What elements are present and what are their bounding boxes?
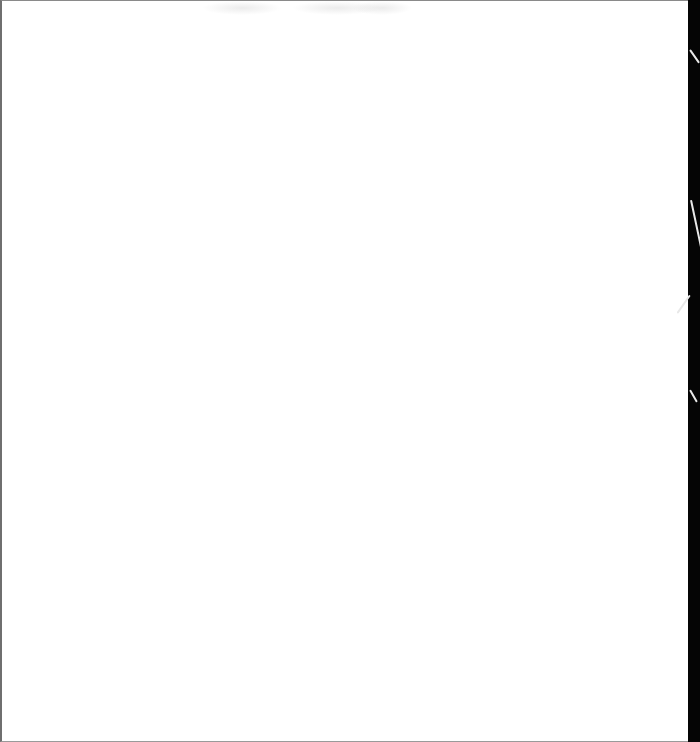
paper-fiber <box>689 50 699 64</box>
scan-smudge <box>202 1 282 15</box>
paper-fiber <box>690 200 700 274</box>
scan-dark-edge <box>688 0 700 742</box>
blank-page <box>0 0 688 742</box>
scanned-document <box>0 0 700 742</box>
paper-fiber <box>689 390 697 403</box>
scan-smudge <box>352 1 412 15</box>
